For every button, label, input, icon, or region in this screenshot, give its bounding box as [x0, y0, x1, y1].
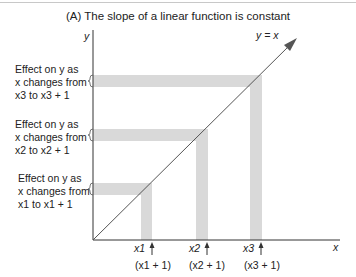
tick-x2-plus-1: (x2 + 1): [189, 259, 225, 272]
y-equals-x-line: [93, 43, 292, 240]
band-x1-horizontal: [93, 183, 152, 195]
brace-icon: [88, 75, 93, 87]
band-x2-vertical: [196, 131, 208, 240]
tick-x1: x1: [134, 242, 145, 255]
tick-x1-plus-1: (x1 + 1): [135, 259, 171, 272]
effect-label-x3: Effect on y as x changes from x3 to x3 +…: [15, 63, 87, 102]
tick-x3-plus-1: (x3 + 1): [244, 259, 280, 272]
line-label: y = x: [256, 29, 278, 42]
effect-label-x1: Effect on y as x changes from x1 to x1 +…: [18, 172, 90, 211]
arrow-up-icon: [205, 242, 210, 255]
arrow-up-icon: [150, 242, 155, 255]
brace-icon: [88, 129, 93, 141]
x-axis-label: x: [333, 241, 338, 254]
band-x2-horizontal: [93, 129, 208, 141]
y-axis-label: y: [84, 30, 89, 43]
tick-x2: x2: [189, 242, 200, 255]
tick-x3: x3: [243, 242, 254, 255]
effect-label-x2: Effect on y as x changes from x2 to x2 +…: [15, 118, 87, 157]
band-x3-vertical: [250, 77, 262, 240]
arrow-up-icon: [259, 242, 264, 255]
band-x3-horizontal: [93, 75, 262, 87]
